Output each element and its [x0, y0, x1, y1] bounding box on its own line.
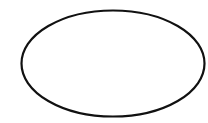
diagram-svg [0, 0, 208, 123]
diagram-canvas [0, 0, 208, 123]
ellipse-shape [22, 11, 205, 117]
